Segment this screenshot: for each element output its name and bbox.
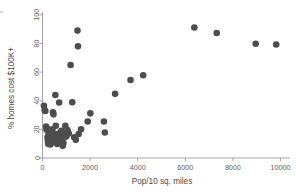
- data-point: [78, 126, 85, 133]
- y-tick-label: 20: [33, 125, 42, 133]
- data-points-group: [41, 24, 280, 149]
- data-point: [73, 136, 80, 143]
- data-point: [65, 130, 72, 137]
- x-tick-label: 8000: [225, 163, 241, 172]
- y-tick-label: 60: [33, 68, 42, 76]
- scatter-plot-figure: 0204060801000200040006000800010000 Pop/1…: [0, 0, 296, 194]
- data-point: [112, 91, 119, 98]
- data-point: [53, 122, 60, 129]
- data-point: [75, 43, 82, 50]
- x-tick-label: 0: [41, 163, 45, 172]
- data-point: [69, 99, 76, 106]
- data-point: [213, 30, 220, 37]
- x-tick-label: 6000: [177, 163, 193, 172]
- data-point: [67, 62, 74, 69]
- y-tick-label: 100: [33, 9, 42, 21]
- data-point: [273, 41, 280, 48]
- data-point: [42, 108, 49, 115]
- x-axis-title: Pop/10 sq. miles: [132, 177, 193, 186]
- chart-canvas: 0204060801000200040006000800010000 Pop/1…: [0, 0, 296, 194]
- axes-group: 0204060801000200040006000800010000: [33, 9, 291, 172]
- x-tick-label: 10000: [270, 163, 290, 172]
- data-point: [127, 77, 134, 84]
- data-point: [102, 129, 109, 136]
- data-point: [191, 24, 198, 31]
- data-point: [84, 118, 91, 125]
- y-tick-label: 80: [33, 39, 42, 47]
- data-point: [52, 92, 59, 99]
- y-axis-title: % homes cost $100K+: [7, 47, 16, 129]
- data-point: [74, 27, 81, 34]
- data-point: [60, 140, 67, 147]
- left-edge-mark: [0, 11, 3, 13]
- x-tick-label: 2000: [82, 163, 98, 172]
- data-point: [101, 118, 108, 125]
- data-point: [56, 99, 63, 106]
- x-tick-label: 4000: [130, 163, 146, 172]
- data-point: [87, 110, 94, 117]
- data-point: [50, 111, 57, 118]
- data-point: [252, 40, 259, 47]
- data-point: [140, 72, 147, 79]
- y-tick-label: 0: [33, 156, 42, 160]
- y-tick-label: 40: [33, 97, 42, 105]
